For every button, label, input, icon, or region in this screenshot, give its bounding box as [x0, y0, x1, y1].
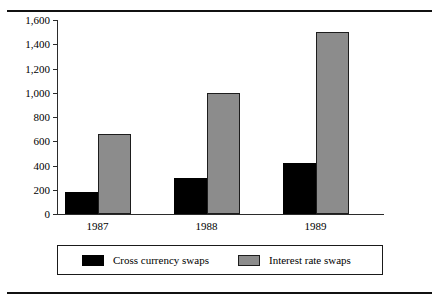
bar-1988-series-0 [174, 178, 207, 214]
legend-swatch-icon [238, 255, 260, 266]
y-axis-tick-label: 200 [8, 184, 50, 195]
y-axis-tick-label: 1,200 [8, 63, 50, 74]
y-axis-tick-label: 400 [8, 160, 50, 171]
y-axis-tick [53, 44, 58, 45]
chart-legend: Cross currency swapsInterest rate swaps [57, 245, 383, 275]
bar-1988-series-1 [207, 93, 240, 214]
x-axis-label-1988: 1988 [196, 220, 218, 232]
y-axis-tick [53, 214, 58, 215]
y-axis-tick-label: 1,400 [8, 39, 50, 50]
y-axis-tick-label: 1,000 [8, 87, 50, 98]
x-axis-label-1987: 1987 [87, 220, 109, 232]
y-axis-tick-label: 800 [8, 112, 50, 123]
bottom-divider [7, 292, 432, 294]
x-axis-label-1989: 1989 [305, 220, 327, 232]
y-axis-tick [53, 69, 58, 70]
plot-area: 02004006008001,0001,2001,4001,600 198719… [57, 20, 384, 215]
bar-1989-series-0 [283, 163, 316, 214]
y-axis-tick [53, 141, 58, 142]
y-axis-tick [53, 190, 58, 191]
legend-label: Interest rate swaps [269, 254, 351, 266]
y-axis-tick [53, 93, 58, 94]
legend-label: Cross currency swaps [113, 254, 209, 266]
legend-swatch-icon [82, 255, 104, 266]
y-axis-tick [53, 20, 58, 21]
y-axis-tick-label: 1,600 [8, 15, 50, 26]
x-axis-line [57, 214, 384, 215]
legend-entry-0[interactable]: Cross currency swaps [82, 253, 209, 267]
bar-1989-series-1 [316, 32, 349, 214]
y-axis-tick [53, 166, 58, 167]
y-axis-tick-label: 600 [8, 136, 50, 147]
chart-figure: 02004006008001,0001,2001,4001,600 198719… [0, 0, 439, 302]
y-axis-tick [53, 117, 58, 118]
header-rule-ghost-text [9, 0, 189, 8]
bar-1987-series-0 [65, 192, 98, 214]
legend-entry-1[interactable]: Interest rate swaps [238, 253, 351, 267]
bar-1987-series-1 [98, 134, 131, 214]
y-axis-tick-label: 0 [8, 209, 50, 220]
top-divider [7, 10, 432, 12]
